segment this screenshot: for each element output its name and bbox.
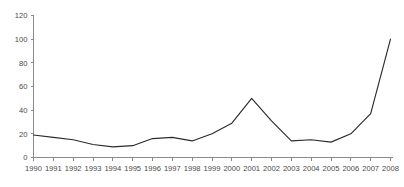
x-tick-label: 2006 xyxy=(342,164,359,173)
x-tick-label: 2003 xyxy=(283,164,300,173)
y-tick-label: 80 xyxy=(19,59,27,68)
x-tick-label: 1991 xyxy=(45,164,62,173)
x-tick-label: 1998 xyxy=(184,164,201,173)
y-tick-label: 100 xyxy=(15,35,28,44)
x-axis-group: 1990199119921993199419951996199719981999… xyxy=(25,158,399,173)
x-tick-label: 1990 xyxy=(25,164,42,173)
x-tick-label: 1995 xyxy=(124,164,141,173)
x-tick-label: 2000 xyxy=(223,164,240,173)
chart-canvas: 020406080100120 199019911992199319941995… xyxy=(0,0,404,187)
y-tick-label: 40 xyxy=(19,106,27,115)
x-tick-label: 2004 xyxy=(303,164,320,173)
y-axis-tick-labels: 020406080100120 xyxy=(15,11,28,162)
x-tick-label: 1997 xyxy=(164,164,181,173)
x-tick-label: 1999 xyxy=(204,164,221,173)
y-tick-label: 20 xyxy=(19,130,27,139)
y-tick-label: 120 xyxy=(15,11,28,20)
data-line-series-1 xyxy=(34,39,391,147)
x-tick-label: 2002 xyxy=(263,164,280,173)
line-chart-figure: 020406080100120 199019911992199319941995… xyxy=(0,0,404,187)
x-tick-label: 2005 xyxy=(323,164,340,173)
x-tick-label: 2001 xyxy=(243,164,260,173)
plot-series-group xyxy=(34,39,391,147)
x-tick-label: 1993 xyxy=(85,164,102,173)
x-tick-label: 2008 xyxy=(382,164,399,173)
x-axis-tick-labels: 1990199119921993199419951996199719981999… xyxy=(25,164,399,173)
x-tick-label: 1992 xyxy=(65,164,82,173)
x-tick-label: 1994 xyxy=(104,164,121,173)
y-tick-label: 0 xyxy=(23,153,27,162)
x-tick-label: 2007 xyxy=(362,164,379,173)
y-axis-group: 020406080100120 xyxy=(15,11,34,162)
y-tick-label: 60 xyxy=(19,82,27,91)
x-tick-label: 1996 xyxy=(144,164,161,173)
